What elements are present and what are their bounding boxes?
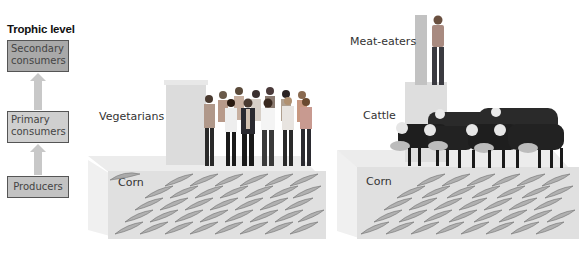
left-consumer-block-top [164,80,208,85]
primary-line1: Primary [11,114,65,126]
producers-label: Producers [13,181,63,192]
left-consumer-block [166,83,206,165]
cattle-herd [388,108,566,172]
left-corn-field [110,172,326,238]
meat-eaters-label: Meat-eaters [350,35,416,48]
trophic-box-primary-consumers: Primary consumers [7,111,69,143]
meat-eater-block [415,15,427,85]
left-base-block-side [88,160,110,236]
primary-line2: consumers [11,126,65,138]
arrow-up-icon [34,151,42,175]
trophic-box-producers: Producers [7,176,69,198]
secondary-line1: Secondary [11,43,65,55]
secondary-line2: consumers [11,55,65,67]
trophic-box-secondary-consumers: Secondary consumers [7,40,69,72]
vegetarians-people-group [202,86,318,170]
arrow-up-icon [34,80,42,110]
legend-title: Trophic level [7,23,75,35]
right-corn-field [359,170,579,238]
meat-eater-person [427,14,449,88]
vegetarians-label: Vegetarians [99,110,164,123]
